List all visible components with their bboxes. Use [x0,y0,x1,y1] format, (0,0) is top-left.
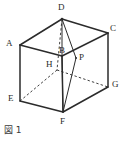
vertex-label-F: F [60,117,65,126]
edge-B-C [62,33,108,56]
vertex-label-H: H [46,60,53,69]
cube-figure: A B C D E F G H P 図 1 [0,0,124,141]
vertex-label-C: C [110,24,116,33]
edge-H-E [20,70,57,101]
edge-E-F [20,101,63,112]
vertex-label-E: E [8,94,14,103]
vertex-label-D: D [58,3,65,12]
edge-D-C [62,19,108,33]
line-F-P [63,58,76,112]
vertex-label-A: A [6,39,13,48]
vertex-label-B: B [59,46,65,55]
vertex-dot-D [61,18,64,21]
construction-lines-group [62,19,76,112]
vertex-label-P: P [79,53,84,62]
edge-A-D [20,19,62,45]
visible-edges-group [20,19,108,112]
edge-A-B [20,45,62,56]
vertex-label-G: G [112,80,119,89]
figure-caption: 図 1 [4,125,22,135]
hidden-edges-group [20,19,108,101]
edge-F-G [63,87,108,112]
vertex-dot-P [75,57,77,59]
edge-H-G [57,70,108,87]
